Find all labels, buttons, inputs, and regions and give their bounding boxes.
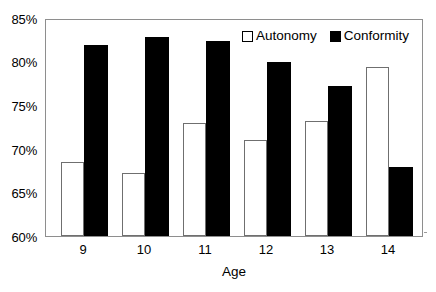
x-tick-label-9: 9 [79,243,86,257]
legend-label-conformity: Conformity [344,29,409,43]
x-axis-title: Age [45,264,423,279]
bar-chart: 85% 80% 75% 70% 65% 60% Autonomy [0,0,436,292]
x-tick-label-12: 12 [259,243,273,257]
y-tick-label-65: 65% [12,187,37,200]
y-axis: 85% 80% 75% 70% 65% 60% [0,0,43,292]
legend-entry-conformity: Conformity [330,29,409,43]
y-tick-label-60: 60% [12,231,37,244]
bar-autonomy-age-11 [183,123,206,236]
bar-conformity-age-14 [389,167,413,236]
open-square-swatch-icon [242,31,253,42]
y-tick-label-70: 70% [12,144,37,157]
bar-conformity-age-11 [206,41,230,236]
bar-autonomy-age-10 [122,173,145,236]
filled-square-swatch-icon [330,31,341,42]
legend-entry-autonomy: Autonomy [242,29,317,43]
bar-conformity-age-9 [84,45,108,236]
x-tick-label-11: 11 [198,243,212,257]
legend-label-autonomy: Autonomy [256,29,317,43]
bar-conformity-age-10 [145,37,169,236]
x-axis: 9 10 11 12 13 14 [45,243,423,261]
x-tick-label-14: 14 [381,243,395,257]
bar-autonomy-age-9 [61,162,84,236]
y-tick-label-85: 85% [12,13,37,26]
bar-autonomy-age-14 [366,67,389,236]
plot-area: Autonomy Conformity [45,19,423,237]
x-tick-label-13: 13 [320,243,334,257]
bar-autonomy-age-12 [244,140,267,236]
y-tick-label-80: 80% [12,56,37,69]
bar-conformity-age-12 [267,62,291,236]
bar-autonomy-age-13 [305,121,328,236]
bar-conformity-age-13 [328,86,352,236]
axis-tick-mark [424,232,427,233]
x-tick-label-10: 10 [137,243,151,257]
legend: Autonomy Conformity [240,28,411,44]
y-tick-label-75: 75% [12,100,37,113]
